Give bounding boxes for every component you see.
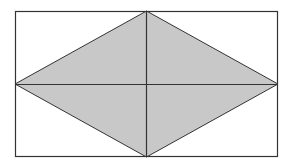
rhombus-diagram <box>0 0 290 166</box>
